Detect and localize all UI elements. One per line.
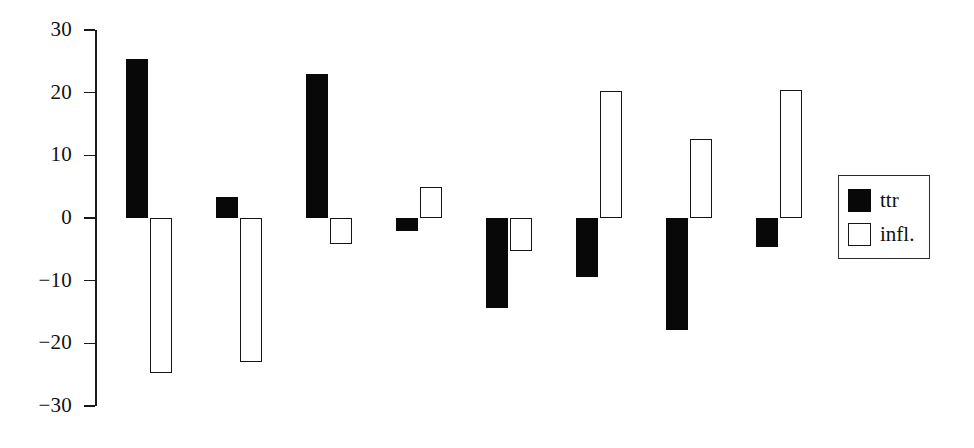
bar-ttr-3 xyxy=(306,74,328,218)
y-axis-line xyxy=(95,30,97,406)
y-tick-label-1: 20 xyxy=(0,82,72,103)
legend-entry-ttr: ttr xyxy=(848,183,929,217)
legend-swatch-filled-icon xyxy=(848,189,871,212)
bar-ttr-5 xyxy=(486,218,508,308)
y-tick-label-0: 30 xyxy=(0,19,72,40)
bar-ttr-1 xyxy=(126,59,148,218)
bar-infl-3 xyxy=(330,218,352,244)
bar-infl-6 xyxy=(600,91,622,218)
bar-ttr-4 xyxy=(396,218,418,231)
y-tick-5 xyxy=(84,343,95,344)
bar-infl-5 xyxy=(510,218,532,251)
bar-infl-4 xyxy=(420,187,442,218)
bar-ttr-8 xyxy=(756,218,778,247)
chart-legend: ttr infl. xyxy=(838,175,930,259)
bar-infl-2 xyxy=(240,218,262,362)
legend-label-infl: infl. xyxy=(880,224,914,245)
y-tick-3 xyxy=(84,217,95,218)
y-tick-1 xyxy=(84,92,95,93)
bar-infl-7 xyxy=(690,139,712,218)
legend-label-ttr: ttr xyxy=(880,190,899,211)
y-tick-label-5: −20 xyxy=(0,332,72,353)
y-tick-label-6: −30 xyxy=(0,395,72,416)
y-tick-6 xyxy=(84,405,95,406)
legend-swatch-open-icon xyxy=(848,223,871,246)
y-tick-label-4: −10 xyxy=(0,270,72,291)
bar-ttr-7 xyxy=(666,218,688,330)
bar-infl-8 xyxy=(780,90,802,218)
bar-infl-1 xyxy=(150,218,172,373)
y-tick-0 xyxy=(84,29,95,30)
legend-entry-infl: infl. xyxy=(848,217,929,251)
y-tick-4 xyxy=(84,280,95,281)
y-tick-2 xyxy=(84,155,95,156)
bar-ttr-6 xyxy=(576,218,598,277)
y-tick-label-3: 0 xyxy=(0,207,72,228)
bar-chart: 3020100−10−20−30 ttr infl. xyxy=(0,0,974,448)
y-tick-label-2: 10 xyxy=(0,144,72,165)
bar-ttr-2 xyxy=(216,197,238,218)
